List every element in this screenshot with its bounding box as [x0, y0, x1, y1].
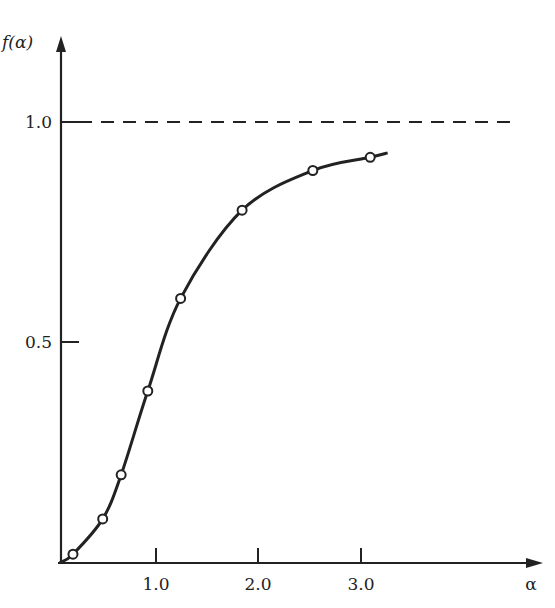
x-tick-label-1: 1.0	[142, 574, 169, 594]
data-point-marker	[117, 470, 126, 479]
x-tick-label-2: 2.0	[244, 574, 271, 594]
chart: f(α) 1.0 0.5 1.0 2.0 3.0 α	[0, 0, 555, 608]
y-axis-arrow-icon	[56, 36, 66, 52]
data-point-marker	[98, 514, 107, 523]
y-axis-label: f(α)	[0, 32, 33, 52]
x-tick-label-3: 3.0	[347, 574, 374, 594]
data-point-marker	[366, 153, 375, 162]
data-point-marker	[143, 387, 152, 396]
series-curve	[60, 153, 388, 563]
y-tick-label-05: 0.5	[25, 332, 52, 352]
data-point-marker	[308, 166, 317, 175]
data-point-marker	[238, 206, 247, 215]
x-axis-label: α	[525, 574, 537, 594]
data-point-marker	[176, 294, 185, 303]
x-axis-arrow-icon	[526, 558, 543, 568]
y-tick-label-1: 1.0	[25, 112, 52, 132]
data-point-marker	[68, 550, 77, 559]
